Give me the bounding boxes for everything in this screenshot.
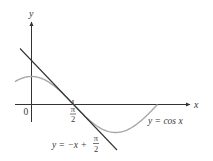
graph-figure: y x 0 π 2 y = cos x y = −x + π 2: [0, 0, 213, 161]
tick-numerator: π: [71, 104, 76, 114]
y-axis-label: y: [28, 8, 34, 19]
origin-label: 0: [24, 107, 29, 117]
tangent-label: y = −x + π 2: [51, 133, 99, 154]
cosine-label: y = cos x: [147, 116, 183, 126]
tangent-label-prefix: y = −x +: [51, 140, 87, 150]
tangent-label-denominator: 2: [94, 144, 98, 154]
x-tick-label-pi-over-2: π 2: [70, 104, 76, 124]
tangent-line: [20, 49, 117, 151]
tick-denominator: 2: [71, 114, 75, 124]
tangent-label-numerator: π: [94, 133, 99, 143]
x-axis-label: x: [193, 99, 199, 110]
